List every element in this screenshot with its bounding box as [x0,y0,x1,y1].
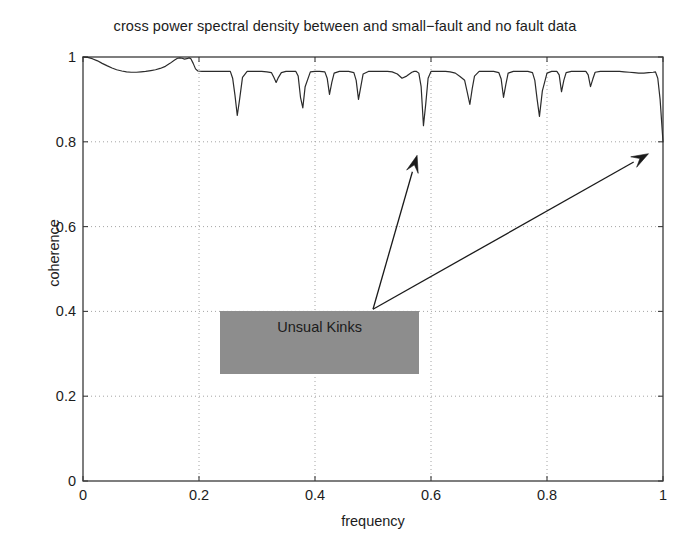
coherence-data-curve [83,57,663,142]
y-tick-label-group: 00.20.40.60.81 [28,0,76,553]
plot-canvas [0,0,690,553]
y-tick-label: 0.2 [30,388,76,404]
x-axis-label: frequency [83,513,663,529]
axis-ticks [83,57,663,481]
annotation-arrows [373,154,649,310]
x-tick-label: 0.4 [285,487,345,503]
x-tick-label: 0.2 [169,487,229,503]
y-tick-label: 1 [30,49,76,65]
y-tick-label: 0.4 [30,303,76,319]
annotation-label: Unsual Kinks [220,319,420,335]
x-tick-label: 0.8 [517,487,577,503]
chart-title: cross power spectral density between and… [0,18,690,34]
y-tick-label: 0.8 [30,134,76,150]
y-tick-label: 0.6 [30,219,76,235]
gridlines [83,57,663,481]
x-tick-label: 0.6 [401,487,461,503]
x-tick-label: 1 [633,487,690,503]
x-tick-label: 0 [53,487,113,503]
figure-container: cross power spectral density between and… [0,0,690,553]
axes-frame [83,57,663,481]
